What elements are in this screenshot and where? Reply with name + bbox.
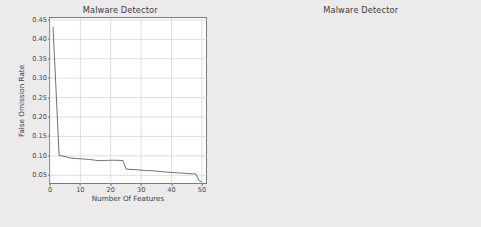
- y-tick-mark: [48, 20, 51, 21]
- y-tick-mark: [48, 78, 51, 79]
- y-tick-label: 0.35: [32, 55, 47, 63]
- x-tick-mark: [171, 183, 172, 186]
- y-tick-label: 0.40: [32, 35, 47, 43]
- y-tick-label: 0.15: [32, 132, 47, 140]
- x-tick-mark: [80, 183, 81, 186]
- x-tick-label: 10: [76, 186, 84, 194]
- figure-container: Malware Detector Number Of Features 0.05…: [0, 0, 481, 227]
- chart-title: Malware Detector: [241, 5, 481, 15]
- chart-panel-false-omission-rate: Malware Detector Number Of Features 0.05…: [0, 0, 241, 227]
- x-tick-mark: [202, 183, 203, 186]
- y-tick-mark: [48, 175, 51, 176]
- plot-area[interactable]: Number Of Features 0.050.100.150.200.250…: [49, 17, 207, 184]
- y-tick-mark: [48, 136, 51, 137]
- y-tick-label: 0.25: [32, 94, 47, 102]
- y-tick-mark: [48, 97, 51, 98]
- y-tick-label: 0.20: [32, 113, 47, 121]
- y-tick-label: 0.10: [32, 152, 47, 160]
- y-tick-mark: [48, 39, 51, 40]
- y-axis-label: False Omission Rate: [17, 64, 26, 136]
- y-tick-mark: [48, 155, 51, 156]
- y-tick-label: 0.05: [32, 171, 47, 179]
- plot-line-svg: [50, 18, 208, 185]
- x-tick-label: 30: [137, 186, 145, 194]
- x-tick-mark: [110, 183, 111, 186]
- x-tick-label: 50: [198, 186, 206, 194]
- data-series-line: [53, 27, 202, 182]
- x-tick-mark: [141, 183, 142, 186]
- x-tick-mark: [50, 183, 51, 186]
- chart-title: Malware Detector: [0, 5, 241, 15]
- y-tick-label: 0.45: [32, 16, 47, 24]
- y-tick-mark: [48, 58, 51, 59]
- y-tick-label: 0.30: [32, 74, 47, 82]
- y-tick-mark: [48, 117, 51, 118]
- x-tick-label: 20: [107, 186, 115, 194]
- x-tick-label: 40: [167, 186, 175, 194]
- chart-panel-false-positive-rate: Malware Detector Number Of Features 0.00…: [241, 0, 481, 227]
- x-axis-label: Number Of Features: [50, 194, 206, 203]
- x-tick-label: 0: [48, 186, 52, 194]
